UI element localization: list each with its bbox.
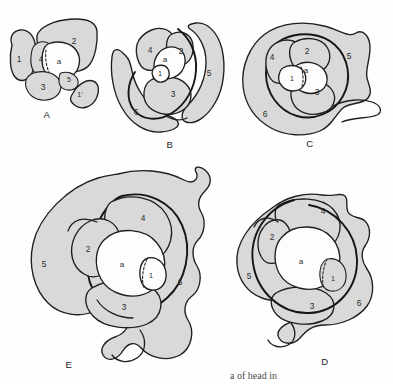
panel-a-label-2: 2: [72, 36, 77, 46]
panel-c-label-4: 4: [270, 52, 275, 62]
panel-e-label-5: 5: [42, 259, 47, 269]
panel-c-label-1: 1: [290, 74, 294, 83]
panel-b[interactable]: 4 2 1 5 3 6 a B: [111, 23, 224, 150]
panel-c-label-6: 6: [263, 109, 268, 119]
panel-e-label-3: 3: [122, 302, 127, 312]
panel-c[interactable]: 2 4 5 1 3 6 a C: [243, 23, 381, 148]
panel-b-center-label: a: [163, 55, 168, 64]
panel-b-label-5: 5: [207, 68, 212, 78]
panel-e[interactable]: 4 2 5 1 6 3 a E: [31, 167, 210, 369]
panel-e-label-2: 2: [86, 244, 91, 254]
panel-a-label-4: 4: [39, 54, 44, 64]
figure-canvas: 1 2 4 3 5 1' a A: [0, 0, 393, 384]
panel-e-label-4: 4: [141, 213, 146, 223]
panel-d-label-6: 6: [357, 298, 362, 308]
panel-d[interactable]: 4 2 5 1 3 6 a D: [237, 194, 373, 366]
panel-c-center-label: a: [304, 66, 309, 75]
panel-d-label-4: 4: [321, 206, 326, 216]
panel-c-label-5: 5: [347, 51, 352, 61]
panel-e-letter: E: [66, 359, 73, 370]
panel-c-label-3: 3: [315, 87, 320, 97]
panel-b-region-3[interactable]: [144, 77, 191, 115]
panel-e-label-1: 1: [149, 271, 153, 280]
panel-e-label-6: 6: [178, 277, 183, 287]
panel-c-letter: C: [306, 138, 313, 149]
panel-b-letter: B: [167, 139, 174, 150]
panel-a-label-1: 1: [17, 54, 22, 64]
panel-d-label-1: 1: [331, 274, 335, 283]
panel-b-label-1: 1: [158, 69, 162, 78]
panel-d-label-2: 2: [270, 232, 275, 242]
panel-d-label-5: 5: [247, 271, 252, 281]
panel-a-label-5: 5: [67, 75, 71, 84]
panel-b-label-6: 6: [134, 107, 139, 117]
panel-a-center-label: a: [57, 57, 62, 66]
panel-a-letter: A: [44, 109, 51, 120]
panel-a-label-3: 3: [41, 82, 46, 92]
panel-c-label-2: 2: [305, 46, 310, 56]
panel-d-letter: D: [321, 356, 328, 367]
panel-d-label-3: 3: [310, 301, 315, 311]
panel-e-center-label: a: [120, 260, 125, 269]
panel-d-center-label: a: [299, 257, 304, 266]
panel-b-label-4: 4: [148, 45, 153, 55]
panel-a[interactable]: 1 2 4 3 5 1' a A: [10, 19, 98, 120]
panel-b-label-2: 2: [179, 46, 184, 56]
figure-root: 1 2 4 3 5 1' a A: [0, 0, 393, 384]
panel-b-label-3: 3: [171, 89, 176, 99]
panel-a-label-1prime: 1': [77, 90, 83, 99]
